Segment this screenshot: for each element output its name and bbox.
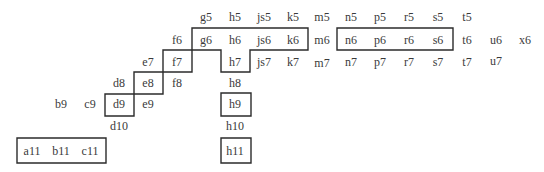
cell-label-e8: e8 <box>142 77 153 89</box>
cell-label-m7: m7 <box>314 57 329 69</box>
cell-label-h7: h7 <box>229 56 241 68</box>
cell-label-s7: s7 <box>433 56 444 68</box>
cell-label-p6: p6 <box>374 34 386 46</box>
cell-label-s6: s6 <box>433 34 444 46</box>
cell-label-x6: x6 <box>519 34 531 46</box>
cell-label-f6: f6 <box>172 34 182 46</box>
cell-label-r5: r5 <box>404 11 414 23</box>
cell-label-h11: h11 <box>226 145 244 157</box>
cell-label-n6: n6 <box>345 34 357 46</box>
cell-label-c11: c11 <box>82 145 99 157</box>
cell-label-k7: k7 <box>287 56 299 68</box>
cell-label-n7: n7 <box>345 56 357 68</box>
cell-label-d10: d10 <box>110 120 128 132</box>
cell-label-js6: js6 <box>257 34 271 46</box>
cell-label-b11: b11 <box>52 145 70 157</box>
cell-label-u7: u7 <box>490 55 502 67</box>
cell-label-f8: f8 <box>172 77 182 89</box>
cell-label-s5: s5 <box>433 11 444 23</box>
cell-label-js5: js5 <box>257 11 271 23</box>
cell-label-d9: d9 <box>113 98 125 110</box>
cell-label-t7: t7 <box>462 56 471 68</box>
cell-label-g6: g6 <box>200 34 212 46</box>
cell-label-h10: h10 <box>226 120 244 132</box>
cell-label-m6: m6 <box>314 34 329 46</box>
cell-label-p7: p7 <box>374 56 386 68</box>
cell-label-u6: u6 <box>490 34 502 46</box>
cell-label-h5: h5 <box>229 11 241 23</box>
cell-label-h8: h8 <box>229 77 241 89</box>
cell-label-g5: g5 <box>200 11 212 23</box>
cell-label-k5: k5 <box>287 11 299 23</box>
cell-label-b9: b9 <box>55 98 67 110</box>
cell-label-h6: h6 <box>229 34 241 46</box>
grid-diagram: g5h5js5k5m5n5p5r5s5t5f6g6h6js6k6m6n6p6r6… <box>0 0 544 172</box>
cell-label-e9: e9 <box>142 98 153 110</box>
cell-label-p5: p5 <box>374 11 386 23</box>
cell-label-f7: f7 <box>172 56 182 68</box>
cell-label-d8: d8 <box>113 77 125 89</box>
cell-label-h9: h9 <box>229 98 241 110</box>
cell-label-m5: m5 <box>314 11 329 23</box>
cell-label-c9: c9 <box>84 98 95 110</box>
cell-label-js7: js7 <box>257 56 271 68</box>
cell-label-a11: a11 <box>24 145 41 157</box>
cell-label-r7: r7 <box>404 56 414 68</box>
cell-label-t6: t6 <box>462 34 471 46</box>
cell-label-e7: e7 <box>142 56 153 68</box>
cell-label-k6: k6 <box>287 34 299 46</box>
cell-label-n5: n5 <box>345 11 357 23</box>
cell-label-t5: t5 <box>462 11 471 23</box>
cell-label-r6: r6 <box>404 34 414 46</box>
